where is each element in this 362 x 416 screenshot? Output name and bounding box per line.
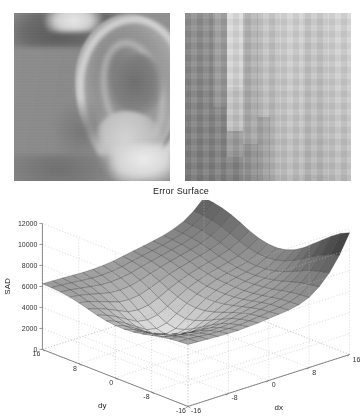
axis-label-dy: dy — [98, 401, 106, 410]
zoomed-patch-panel — [185, 13, 351, 181]
axis-dy — [42, 349, 188, 406]
surface-mesh — [42, 200, 349, 344]
tick-label-dy: 16 — [33, 350, 41, 357]
tick-label-dy: 0 — [109, 379, 113, 386]
grid-z — [42, 349, 349, 406]
error-surface-chart: Error Surface 02000400060008000100001200… — [0, 186, 362, 416]
ear-image — [14, 13, 170, 181]
figure-root: Error Surface 02000400060008000100001200… — [0, 0, 362, 416]
tick-label-z: 4000 — [22, 304, 38, 311]
tick-label-dx: -16 — [191, 407, 201, 414]
tick-label-dy: -8 — [143, 393, 149, 400]
surface-plot-svg: 020004000600080001000012000-16-80816-16-… — [0, 200, 362, 416]
tick-label-dy: 8 — [73, 365, 77, 372]
patch-image-grain — [185, 13, 351, 181]
tick-label-dx: 0 — [272, 381, 276, 388]
tick-label-dx: 8 — [312, 369, 316, 376]
tick-label-dy: -16 — [176, 407, 186, 414]
axis-label-sad: SAD — [3, 278, 12, 295]
chart-title: Error Surface — [0, 186, 362, 196]
tick-label-z: 10000 — [18, 241, 38, 248]
tick-label-dx: -8 — [231, 394, 237, 401]
tick-label-z: 8000 — [22, 262, 38, 269]
axis-label-dx: dx — [275, 403, 283, 412]
tick-label-z: 12000 — [18, 220, 38, 227]
grid-floor-y — [152, 340, 314, 392]
image-panels — [0, 0, 362, 186]
chart-plot-area: 020004000600080001000012000-16-80816-16-… — [0, 200, 362, 416]
source-image-panel — [14, 13, 170, 181]
ear-image-grain — [14, 13, 170, 181]
tick-label-dx: 16 — [353, 356, 361, 363]
tick-label-z: 2000 — [22, 325, 38, 332]
zoomed-patch-image — [185, 13, 351, 181]
tick-label-z: 6000 — [22, 283, 38, 290]
